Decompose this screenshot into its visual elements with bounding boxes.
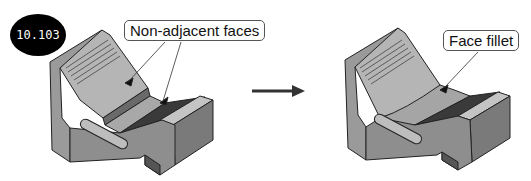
part-before xyxy=(50,30,213,175)
callout-face-fillet: Face fillet xyxy=(443,30,519,51)
leader-line xyxy=(444,52,478,88)
figure-graphics xyxy=(0,0,531,181)
right-arrow-icon xyxy=(252,85,305,97)
callout-non-adjacent-faces: Non-adjacent faces xyxy=(124,20,265,41)
figure-number-badge: 10.103 xyxy=(10,14,66,56)
